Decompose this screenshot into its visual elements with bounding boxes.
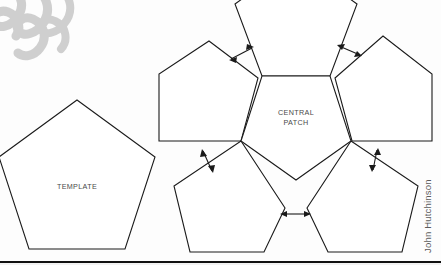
template-label: TEMPLATE xyxy=(57,182,97,191)
shape-upper-right-pentagon xyxy=(335,36,432,141)
central-patch-label-line2: PATCH xyxy=(283,118,308,127)
pentagon-net-diagram: TEMPLATE CENTRAL PATCH xyxy=(0,0,441,265)
shape-upper-left-pentagon xyxy=(159,41,258,141)
gap-arrow-top-right xyxy=(337,44,362,57)
shape-template-pentagon xyxy=(0,100,155,249)
gap-arrow-top-left xyxy=(229,44,254,63)
credit-text: John Hutchinson xyxy=(422,179,433,253)
credit-line: John Hutchinson xyxy=(426,133,440,253)
gap-arrow-bottom xyxy=(280,211,311,217)
bottom-rule xyxy=(0,261,441,263)
shape-central-pentagon xyxy=(241,76,351,180)
figure-page: TEMPLATE CENTRAL PATCH John Hutchinson xyxy=(0,0,441,265)
shape-top-pentagon xyxy=(235,0,357,76)
script-watermark xyxy=(0,0,70,56)
central-patch-label-line1: CENTRAL xyxy=(278,108,314,117)
